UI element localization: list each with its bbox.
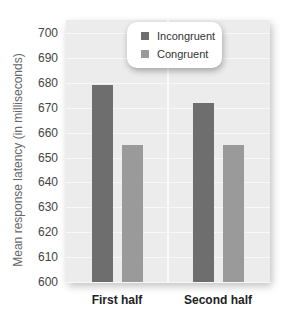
ylabel: Mean response latency (in milliseconds) [11, 53, 25, 266]
y-tick-label: 680 [38, 76, 58, 90]
y-tick-label: 700 [38, 26, 58, 40]
legend-label: Congruent [157, 48, 208, 60]
legend: Incongruent Congruent [127, 22, 222, 68]
y-tick-label: 660 [38, 126, 58, 140]
legend-item-congruent: Congruent [141, 48, 208, 60]
y-tick-label: 630 [38, 200, 58, 214]
y-tick-label: 620 [38, 225, 58, 239]
xlabel-second-half: Second half [184, 293, 252, 307]
gridline [66, 83, 270, 84]
y-tick-label: 610 [38, 250, 58, 264]
y-tick-label: 600 [38, 275, 58, 289]
legend-label: Incongruent [157, 30, 215, 42]
y-tick-label: 650 [38, 151, 58, 165]
legend-swatch-icon [141, 50, 149, 58]
bar-congruent-1 [223, 145, 244, 282]
gridline [66, 282, 270, 283]
bar-congruent-0 [122, 145, 143, 282]
legend-item-incongruent: Incongruent [141, 30, 215, 42]
y-tick-label: 670 [38, 101, 58, 115]
bar-incongruent-1 [193, 103, 214, 282]
legend-swatch-icon [141, 32, 149, 40]
y-tick-label: 640 [38, 175, 58, 189]
bar-incongruent-0 [92, 85, 113, 282]
y-tick-label: 690 [38, 51, 58, 65]
xlabel-first-half: First half [92, 293, 143, 307]
